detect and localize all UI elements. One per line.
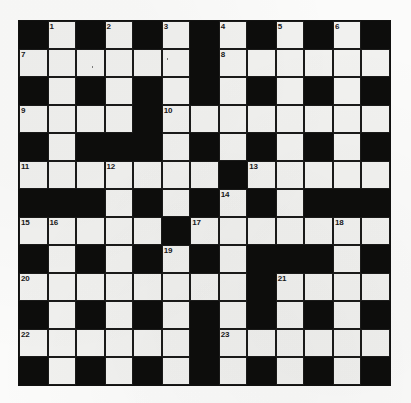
letter-cell[interactable]: [133, 217, 162, 245]
letter-cell[interactable]: [333, 133, 362, 161]
letter-cell[interactable]: [105, 245, 134, 273]
letter-cell[interactable]: [304, 329, 333, 357]
letter-cell[interactable]: [48, 77, 77, 105]
letter-cell[interactable]: [105, 357, 134, 385]
letter-cell[interactable]: [219, 357, 248, 385]
letter-cell[interactable]: [48, 49, 77, 77]
letter-cell[interactable]: [162, 273, 191, 301]
letter-cell[interactable]: 4: [219, 21, 248, 49]
letter-cell[interactable]: [76, 273, 105, 301]
letter-cell[interactable]: [105, 329, 134, 357]
letter-cell[interactable]: 20: [19, 273, 48, 301]
letter-cell[interactable]: [247, 329, 276, 357]
letter-cell[interactable]: [162, 329, 191, 357]
letter-cell[interactable]: [247, 217, 276, 245]
letter-cell[interactable]: [276, 329, 305, 357]
letter-cell[interactable]: 12: [105, 161, 134, 189]
letter-cell[interactable]: [219, 133, 248, 161]
letter-cell[interactable]: [276, 77, 305, 105]
letter-cell[interactable]: [105, 217, 134, 245]
letter-cell[interactable]: [105, 77, 134, 105]
letter-cell[interactable]: [162, 357, 191, 385]
letter-cell[interactable]: [304, 217, 333, 245]
letter-cell[interactable]: [304, 105, 333, 133]
letter-cell[interactable]: [48, 133, 77, 161]
letter-cell[interactable]: [361, 273, 390, 301]
letter-cell[interactable]: [76, 105, 105, 133]
letter-cell[interactable]: [105, 49, 134, 77]
letter-cell[interactable]: [361, 161, 390, 189]
letter-cell[interactable]: [48, 301, 77, 329]
letter-cell[interactable]: 10: [162, 105, 191, 133]
letter-cell[interactable]: [361, 105, 390, 133]
letter-cell[interactable]: 2: [105, 21, 134, 49]
letter-cell[interactable]: [333, 77, 362, 105]
letter-cell[interactable]: [162, 301, 191, 329]
letter-cell[interactable]: [48, 245, 77, 273]
letter-cell[interactable]: [247, 105, 276, 133]
letter-cell[interactable]: [219, 77, 248, 105]
letter-cell[interactable]: [76, 329, 105, 357]
letter-cell[interactable]: [219, 273, 248, 301]
letter-cell[interactable]: [276, 301, 305, 329]
letter-cell[interactable]: [133, 273, 162, 301]
letter-cell[interactable]: [361, 329, 390, 357]
letter-cell[interactable]: [219, 217, 248, 245]
letter-cell[interactable]: [219, 245, 248, 273]
letter-cell[interactable]: [333, 245, 362, 273]
letter-cell[interactable]: [304, 161, 333, 189]
letter-cell[interactable]: [276, 133, 305, 161]
letter-cell[interactable]: [361, 49, 390, 77]
letter-cell[interactable]: [162, 77, 191, 105]
letter-cell[interactable]: [162, 133, 191, 161]
letter-cell[interactable]: [105, 105, 134, 133]
letter-cell[interactable]: [219, 105, 248, 133]
letter-cell[interactable]: [76, 217, 105, 245]
letter-cell[interactable]: [304, 49, 333, 77]
letter-cell[interactable]: [276, 105, 305, 133]
letter-cell[interactable]: [276, 161, 305, 189]
letter-cell[interactable]: [219, 301, 248, 329]
letter-cell[interactable]: 18: [333, 217, 362, 245]
letter-cell[interactable]: [48, 273, 77, 301]
letter-cell[interactable]: [105, 301, 134, 329]
letter-cell[interactable]: [105, 273, 134, 301]
letter-cell[interactable]: 21: [276, 273, 305, 301]
letter-cell[interactable]: 9: [19, 105, 48, 133]
letter-cell[interactable]: [133, 329, 162, 357]
letter-cell[interactable]: [162, 189, 191, 217]
letter-cell[interactable]: [333, 105, 362, 133]
letter-cell[interactable]: 7: [19, 49, 48, 77]
letter-cell[interactable]: [133, 49, 162, 77]
letter-cell[interactable]: [276, 357, 305, 385]
letter-cell[interactable]: [247, 49, 276, 77]
letter-cell[interactable]: 16: [48, 217, 77, 245]
letter-cell[interactable]: [304, 273, 333, 301]
letter-cell[interactable]: [48, 329, 77, 357]
letter-cell[interactable]: 14: [219, 189, 248, 217]
letter-cell[interactable]: [333, 329, 362, 357]
letter-cell[interactable]: 13: [247, 161, 276, 189]
letter-cell[interactable]: 17: [190, 217, 219, 245]
letter-cell[interactable]: [333, 161, 362, 189]
letter-cell[interactable]: [48, 105, 77, 133]
letter-cell[interactable]: 15: [19, 217, 48, 245]
letter-cell[interactable]: 3: [162, 21, 191, 49]
letter-cell[interactable]: [190, 273, 219, 301]
letter-cell[interactable]: [276, 217, 305, 245]
crossword-grid[interactable]: 1234567891011121314151617181920212223: [18, 20, 391, 386]
letter-cell[interactable]: [190, 161, 219, 189]
letter-cell[interactable]: [48, 161, 77, 189]
letter-cell[interactable]: [76, 161, 105, 189]
letter-cell[interactable]: 23: [219, 329, 248, 357]
letter-cell[interactable]: [162, 161, 191, 189]
letter-cell[interactable]: [333, 273, 362, 301]
letter-cell[interactable]: [76, 49, 105, 77]
letter-cell[interactable]: 1: [48, 21, 77, 49]
letter-cell[interactable]: 6: [333, 21, 362, 49]
letter-cell[interactable]: [276, 49, 305, 77]
letter-cell[interactable]: [361, 217, 390, 245]
letter-cell[interactable]: 11: [19, 161, 48, 189]
letter-cell[interactable]: 8: [219, 49, 248, 77]
letter-cell[interactable]: [333, 49, 362, 77]
